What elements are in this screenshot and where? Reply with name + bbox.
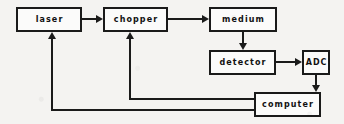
node-medium-label: medium — [221, 16, 265, 24]
node-detector-label: detector — [218, 59, 266, 67]
node-adc-label: ADC — [305, 59, 328, 67]
arrowhead-chopper-to-medium — [202, 15, 209, 23]
node-chopper-label: chopper — [113, 16, 159, 24]
arrowhead-computer-to-laser — [48, 32, 56, 39]
arrowhead-computer-to-chopper — [126, 32, 134, 39]
node-chopper[interactable]: chopper — [103, 7, 168, 32]
edge-computer-to-laser-vertical — [51, 39, 53, 111]
node-laser-label: laser — [35, 16, 64, 24]
node-medium[interactable]: medium — [209, 7, 277, 32]
edge-computer-to-chopper-horizontal — [129, 98, 256, 100]
arrowhead-adc-to-computer — [312, 85, 320, 92]
arrowhead-medium-to-detector — [239, 43, 247, 50]
node-laser[interactable]: laser — [16, 7, 82, 32]
node-detector[interactable]: detector — [209, 50, 276, 75]
arrowhead-detector-to-adc — [295, 58, 302, 66]
arrowhead-laser-to-chopper — [96, 15, 103, 23]
edge-chopper-to-medium — [168, 18, 202, 20]
edge-detector-to-adc — [276, 61, 295, 63]
edge-computer-to-chopper-vertical — [129, 39, 131, 100]
node-computer[interactable]: computer — [254, 92, 321, 117]
node-computer-label: computer — [261, 101, 314, 109]
edge-computer-to-laser-horizontal — [51, 109, 256, 111]
node-adc[interactable]: ADC — [302, 50, 330, 75]
block-diagram: laser chopper medium detector ADC comput… — [0, 0, 344, 124]
